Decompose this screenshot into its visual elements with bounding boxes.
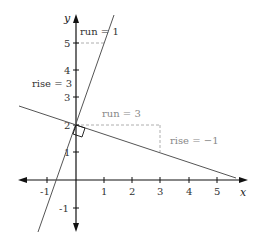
y-axis-up-arrow-icon [73, 14, 79, 23]
x-tick-label: 4 [186, 186, 192, 197]
rise-steep-label: rise = 3 [32, 78, 72, 89]
rise-shallow-label: rise = −1 [170, 135, 219, 146]
x-tick-label: 3 [157, 186, 163, 197]
diagram-canvas: -1 1 2 3 4 5 5 4 3 2 1 -1 x y run = 1 ri… [0, 0, 259, 247]
x-tick-label: 1 [101, 186, 107, 197]
run-shallow-label: run = 3 [102, 108, 141, 119]
run-steep-label: run = 1 [80, 26, 119, 37]
x-axis-right-arrow-icon [239, 177, 248, 183]
y-tick-label: 4 [64, 65, 70, 76]
y-axis-label: y [63, 12, 71, 25]
y-tick-label: -1 [59, 203, 69, 214]
x-axis-label: x [240, 186, 247, 199]
y-axis-down-arrow-icon [73, 223, 79, 232]
x-tick-label: -1 [40, 186, 50, 197]
y-tick-label: 3 [64, 92, 70, 103]
x-tick-label: 5 [214, 186, 220, 197]
x-tick-label: 2 [129, 186, 135, 197]
x-axis-left-arrow-icon [18, 177, 27, 183]
y-tick-label: 5 [64, 38, 70, 49]
coordinate-plane: -1 1 2 3 4 5 5 4 3 2 1 -1 x y run = 1 ri… [0, 0, 259, 247]
